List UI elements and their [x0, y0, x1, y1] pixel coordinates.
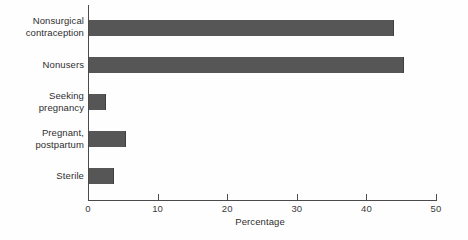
category-label-pregnant-postpartum: Pregnant, postpartum — [35, 127, 84, 150]
x-tick-label-0: 0 — [68, 203, 108, 214]
category-label-seeking-pregnancy: Seeking pregnancy — [39, 90, 84, 113]
x-axis-title: Percentage — [0, 216, 468, 227]
bar-pregnant-postpartum — [89, 131, 126, 147]
x-tick-40 — [366, 194, 367, 201]
x-tick-label-40: 40 — [346, 203, 386, 214]
bar-sterile — [89, 168, 114, 184]
x-tick-label-10: 10 — [138, 203, 178, 214]
category-label-nonsurgical-contraception: Nonsurgical contraception — [26, 15, 84, 38]
x-tick-label-50: 50 — [416, 203, 456, 214]
bar-nonusers — [89, 57, 404, 73]
x-tick-50 — [436, 194, 437, 201]
x-tick-20 — [227, 194, 228, 201]
bar-nonsurgical-contraception — [89, 20, 394, 36]
y-axis-line — [88, 5, 89, 201]
x-axis-line — [88, 200, 436, 201]
x-tick-0 — [88, 194, 89, 201]
category-label-nonusers: Nonusers — [43, 59, 84, 71]
x-tick-10 — [158, 194, 159, 201]
bar-chart: Nonsurgical contraception Nonusers Seeki… — [0, 0, 468, 240]
x-tick-label-20: 20 — [207, 203, 247, 214]
bar-seeking-pregnancy — [89, 94, 106, 110]
x-axis-title-text: Percentage — [235, 216, 285, 227]
x-tick-30 — [297, 194, 298, 201]
x-tick-label-30: 30 — [277, 203, 317, 214]
category-label-sterile: Sterile — [56, 170, 84, 182]
